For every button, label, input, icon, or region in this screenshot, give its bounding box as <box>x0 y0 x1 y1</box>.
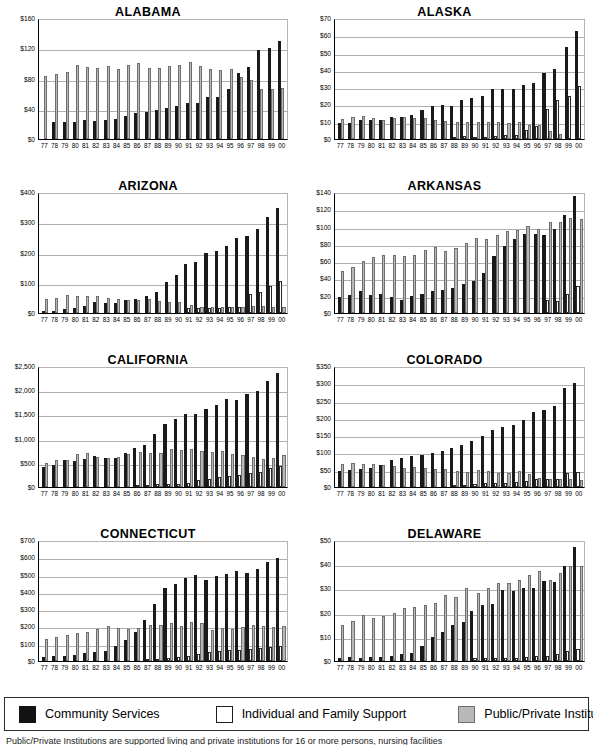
y-tick-label: $500 <box>20 461 35 468</box>
bar-ppi <box>178 65 181 139</box>
x-tick-label: 84 <box>111 664 121 672</box>
x-axis: 7778798081828384858687888990919293949596… <box>334 664 585 672</box>
x-tick-label: 95 <box>522 490 532 498</box>
bar-group <box>429 20 439 139</box>
bar-cs <box>215 251 218 313</box>
bar-group <box>429 368 439 487</box>
chart-panel-california: CALIFORNIA$0$500$1,000$1,500$2,000$2,500… <box>0 348 296 522</box>
x-tick-label: 78 <box>49 316 59 324</box>
bar-ppi <box>403 117 406 139</box>
x-axis: 7778798081828384858687888990919293949596… <box>334 316 585 324</box>
x-tick-label: 93 <box>501 316 511 324</box>
x-tick-label: 86 <box>428 490 438 498</box>
bar-group <box>91 542 101 661</box>
x-tick-label: 81 <box>377 664 387 672</box>
bar-group <box>563 20 573 139</box>
y-tick-label: $0 <box>28 137 35 144</box>
y-axis: $0$500$1,000$1,500$2,000$2,500 <box>0 367 37 488</box>
bar-group <box>173 542 183 661</box>
x-tick-label: 89 <box>460 490 470 498</box>
bar-group <box>460 194 470 313</box>
x-axis: 7778798081828384858687888990919293949596… <box>334 142 585 150</box>
bar-cs <box>184 264 187 313</box>
bar-group <box>511 542 521 661</box>
bar-groups <box>335 194 584 313</box>
x-tick-label: 77 <box>39 490 49 498</box>
y-axis: $0$10$20$30$40$50$60$70 <box>296 19 333 140</box>
bar-ppi <box>127 65 130 139</box>
bar-group <box>143 194 153 313</box>
legend-label-community-services: Community Services <box>45 707 160 721</box>
x-tick-label: 99 <box>563 316 573 324</box>
bar-group <box>501 542 511 661</box>
x-tick-label: 97 <box>543 142 553 150</box>
x-tick-label: 77 <box>39 142 49 150</box>
bar-ppi <box>413 607 416 661</box>
x-tick-label: 84 <box>408 490 418 498</box>
bar-group <box>521 542 531 661</box>
x-tick-label: 94 <box>511 664 521 672</box>
bar-group <box>50 368 60 487</box>
bar-cs <box>184 578 187 661</box>
bar-cs <box>194 575 197 661</box>
y-tick-label: $50 <box>320 50 331 57</box>
bar-ppi <box>362 464 365 487</box>
bar-group <box>102 20 112 139</box>
bar-ppi <box>76 633 79 661</box>
bar-group <box>501 20 511 139</box>
plot-box <box>38 19 288 140</box>
plot-box <box>38 541 288 662</box>
bar-group <box>418 194 428 313</box>
bar-group <box>490 20 500 139</box>
bar-group <box>91 20 101 139</box>
x-tick-label: 00 <box>574 490 584 498</box>
x-tick-label: 96 <box>235 664 245 672</box>
bar-group <box>573 194 583 313</box>
x-tick-label: 85 <box>122 142 132 150</box>
bar-ppi <box>372 618 375 661</box>
x-tick-label: 81 <box>377 142 387 150</box>
bar-cs <box>501 590 504 661</box>
bar-ppi <box>117 628 120 661</box>
x-tick-label: 85 <box>418 316 428 324</box>
bar-ppi <box>424 468 427 487</box>
bar-group <box>204 542 214 661</box>
x-tick-label: 85 <box>418 142 428 150</box>
bar-cs <box>163 588 166 661</box>
bar-ppi <box>86 453 89 487</box>
x-tick-label: 79 <box>356 316 366 324</box>
x-tick-label: 77 <box>39 664 49 672</box>
bar-groups <box>335 368 584 487</box>
x-tick-label: 99 <box>563 490 573 498</box>
bar-cs <box>194 262 197 313</box>
bar-ppi <box>55 637 58 661</box>
x-tick-label: 81 <box>80 490 90 498</box>
bar-cs <box>512 425 515 487</box>
bar-group <box>194 542 204 661</box>
bar-ppi <box>372 464 375 487</box>
x-tick-label: 91 <box>480 490 490 498</box>
bar-cs <box>450 106 453 139</box>
x-tick-label: 80 <box>70 316 80 324</box>
bar-cs <box>542 581 545 661</box>
plot-area: $0$40$80$120$160777879808182838485868788… <box>0 19 290 158</box>
x-tick-label: 98 <box>553 316 563 324</box>
bar-ppi <box>403 256 406 313</box>
bar-group <box>235 20 245 139</box>
legend-label-individual-family-support: Individual and Family Support <box>242 707 407 721</box>
bar-group <box>418 20 428 139</box>
bar-ppi <box>282 626 285 661</box>
bar-ppi <box>362 116 365 139</box>
figure-page: ALABAMA$0$40$80$120$16077787980818283848… <box>0 0 593 745</box>
bar-group <box>521 20 531 139</box>
x-tick-label: 89 <box>163 142 173 150</box>
x-tick-label: 77 <box>39 316 49 324</box>
y-tick-label: $200 <box>316 416 331 423</box>
x-tick-label: 92 <box>194 142 204 150</box>
bar-ppi <box>506 231 509 313</box>
bar-group <box>40 194 50 313</box>
bar-ppi <box>382 255 385 313</box>
bar-group <box>336 194 346 313</box>
x-tick-label: 92 <box>194 316 204 324</box>
bar-group <box>276 368 286 487</box>
